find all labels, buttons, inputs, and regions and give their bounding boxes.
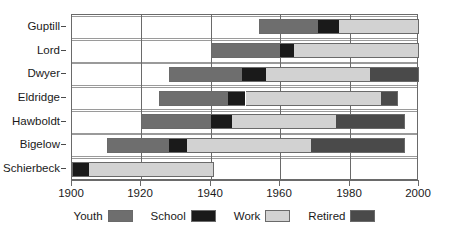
bar-segment-work: [232, 114, 336, 129]
y-axis-label-lord: Lord: [37, 44, 60, 56]
bar-segment-school: [169, 138, 186, 153]
bar-segment-youth: [159, 91, 228, 106]
y-axis-tick: [61, 73, 66, 74]
bar-segment-work: [89, 162, 214, 177]
y-axis-tick: [61, 144, 66, 145]
x-axis-tick: [349, 180, 350, 186]
bar-row: [72, 19, 417, 34]
legend-item-work[interactable]: Work: [234, 210, 291, 222]
legend-swatch-retired: [350, 210, 375, 222]
bar-segment-youth: [211, 43, 280, 58]
bar-segment-youth: [107, 138, 169, 153]
x-axis-label-1900: 1900: [58, 187, 84, 199]
legend-swatch-school: [191, 210, 216, 222]
bar-segment-youth: [259, 19, 318, 34]
x-axis-label-1940: 1940: [197, 187, 223, 199]
x-axis-label-1920: 1920: [127, 187, 153, 199]
y-axis-label-dwyer: Dwyer: [27, 67, 60, 79]
row-separator-line: [72, 156, 417, 157]
legend-item-school[interactable]: School: [151, 210, 216, 222]
bar-segment-school: [280, 43, 294, 58]
bar-segment-school: [242, 67, 266, 82]
bar-segment-school: [228, 91, 245, 106]
x-axis-label-1960: 1960: [266, 187, 292, 199]
bar-row: [72, 114, 417, 129]
row-separator-line: [72, 85, 417, 86]
row-separator-line: [72, 158, 417, 159]
x-axis-tick: [418, 180, 419, 186]
bar-segment-work: [246, 91, 381, 106]
x-axis-tick: [210, 180, 211, 186]
bar-segment-work: [266, 67, 370, 82]
y-axis-tick: [61, 168, 66, 169]
y-axis-label-guptill: Guptill: [27, 20, 60, 32]
bar-row: [72, 67, 417, 82]
bar-segment-school: [211, 114, 232, 129]
row-separator-line: [72, 16, 417, 17]
legend-label: Retired: [308, 210, 345, 222]
x-axis-tick: [140, 180, 141, 186]
row-separator-line: [72, 63, 417, 64]
y-axis-label-eldridge: Eldridge: [18, 91, 60, 103]
bar-segment-retired: [311, 138, 405, 153]
x-axis-tick: [71, 180, 72, 186]
y-axis-tick: [61, 50, 66, 51]
bar-row: [72, 91, 417, 106]
chart-legend: YouthSchoolWorkRetired: [0, 207, 449, 225]
legend-item-youth[interactable]: Youth: [74, 210, 133, 222]
row-separator-line: [72, 111, 417, 112]
y-axis-labels: GuptillLordDwyerEldridgeHawboldtBigelowS…: [0, 14, 66, 180]
y-axis-tick: [61, 121, 66, 122]
y-axis-label-schierbeck: Schierbeck: [3, 162, 60, 174]
y-axis-tick: [61, 97, 66, 98]
bar-segment-youth: [141, 114, 210, 129]
row-separator-line: [72, 109, 417, 110]
legend-label: Youth: [74, 210, 103, 222]
y-axis-tick: [61, 26, 66, 27]
life-phase-timeline-chart: GuptillLordDwyerEldridgeHawboldtBigelowS…: [0, 0, 449, 235]
bar-segment-work: [187, 138, 312, 153]
bar-segment-school: [72, 162, 89, 177]
legend-item-retired[interactable]: Retired: [308, 210, 375, 222]
bar-row: [72, 138, 417, 153]
row-separator-line: [72, 87, 417, 88]
y-axis-label-bigelow: Bigelow: [20, 138, 60, 150]
x-axis-tick: [279, 180, 280, 186]
legend-label: School: [151, 210, 186, 222]
plot-area: [71, 14, 418, 180]
x-axis-line: [71, 180, 418, 181]
bar-segment-school: [318, 19, 339, 34]
bar-segment-work: [339, 19, 419, 34]
legend-label: Work: [234, 210, 261, 222]
bar-row: [72, 43, 417, 58]
bar-row: [72, 162, 417, 177]
bar-segment-youth: [169, 67, 242, 82]
bar-segment-retired: [336, 114, 405, 129]
bar-segment-work: [294, 43, 419, 58]
legend-swatch-youth: [108, 210, 133, 222]
x-axis-label-1980: 1980: [336, 187, 362, 199]
row-separator-line: [72, 40, 417, 41]
legend-swatch-work: [265, 210, 290, 222]
row-separator-line: [72, 38, 417, 39]
bar-segment-retired: [381, 91, 398, 106]
bar-segment-retired: [370, 67, 419, 82]
y-axis-label-hawboldt: Hawboldt: [12, 115, 60, 127]
row-separator-line: [72, 134, 417, 135]
x-axis-label-2000: 2000: [405, 187, 431, 199]
